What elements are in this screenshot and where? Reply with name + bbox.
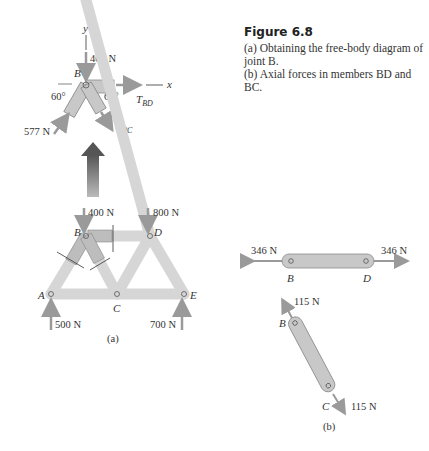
transition-arrow-icon	[81, 142, 105, 197]
figure-diagram: y 400 N B 60° 60° x TBD TBC 577 N	[0, 0, 429, 451]
bd-right-force-label: 346 N	[381, 245, 407, 256]
panel-b-label: (b)	[323, 421, 336, 433]
bd-end-b-label: B	[287, 272, 294, 284]
member-bd: 346 N 346 N B D	[251, 245, 407, 284]
joint-b-label: B	[74, 67, 81, 79]
reaction-a-label: 500 N	[55, 319, 81, 330]
bd-left-force-label: 346 N	[251, 245, 277, 256]
bc-top-force-label: 115 N	[294, 296, 320, 307]
truss-diagram: A B C D E 400 N 800 N 500 N 700 N (a)	[37, 0, 197, 345]
bc-bottom-force-label: 115 N	[351, 401, 377, 412]
member-bc: 115 N B C 115 N (b)	[279, 296, 377, 433]
panel-a-label: (a)	[107, 333, 119, 345]
tension-bc-arrow-icon	[101, 112, 111, 128]
reaction-e-label: 700 N	[150, 319, 176, 330]
axis-x-label: x	[166, 78, 172, 90]
joint-c-label: C	[113, 302, 121, 314]
load-d-label: 800 N	[153, 207, 179, 218]
joint-e-label: E	[189, 289, 197, 301]
tension-bd-label: TBD	[136, 93, 153, 108]
joint-d-label: D	[153, 226, 162, 238]
joint-a-label: A	[37, 289, 45, 301]
bc-end-b-label: B	[279, 317, 286, 329]
joint-b-label: B	[74, 226, 81, 238]
bd-end-d-label: D	[362, 272, 371, 284]
force-577-arrow-icon	[54, 116, 67, 134]
force-577-label: 577 N	[24, 126, 50, 137]
load-b-label: 400 N	[88, 207, 114, 218]
angle-left-label: 60°	[51, 91, 66, 102]
bc-end-c-label: C	[322, 400, 330, 412]
